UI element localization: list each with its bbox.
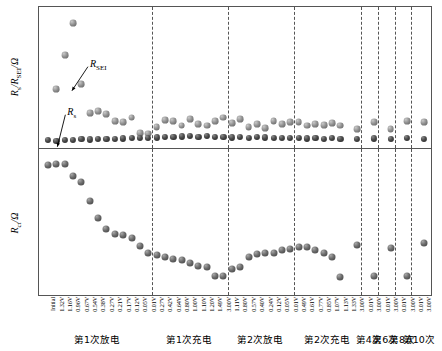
group-caption-3: 第2次充电 [304, 332, 350, 346]
x-tick-label-12: 0.01V [150, 297, 157, 312]
x-tick-label-15: 0.64V [175, 297, 182, 312]
group-caption-2: 第2次放电 [237, 332, 283, 346]
data-point [245, 253, 252, 260]
data-point [95, 214, 102, 221]
data-point [421, 240, 428, 247]
plot-area-top: 020406080RSEIRs [39, 7, 431, 148]
data-point [404, 273, 411, 280]
x-axis-group-captions: 第1次放电第1次充电第2次放电第2次充电第4次第6次第8次第10次 [38, 332, 432, 350]
x-tick-label-26: 0.24V [267, 297, 274, 312]
data-point [304, 243, 311, 250]
data-point [70, 173, 77, 180]
x-tick-label-41: 3.00V [392, 297, 399, 312]
data-point [178, 257, 185, 264]
x-tick-label-42: 0.01V [400, 297, 407, 312]
x-tick-label-1: 1.32V [58, 297, 65, 312]
group-divider-4 [361, 149, 362, 295]
group-caption-1: 第1次充电 [166, 332, 212, 346]
plot-area-bottom: 0100200300400500600 [39, 149, 431, 295]
x-tick-label-44: 0.01V [417, 297, 424, 312]
group-divider-1 [152, 149, 153, 295]
group-divider-3 [294, 149, 295, 295]
x-tick-label-3: 0.96V [74, 297, 81, 312]
x-tick-label-28: 0.05V [283, 297, 290, 312]
x-tick-label-16: 0.80V [183, 297, 190, 312]
x-tick-label-30: 0.49V [300, 297, 307, 312]
x-tick-label-29: 0.01V [292, 297, 299, 312]
data-point [195, 263, 202, 270]
x-tick-label-11: 0.05V [141, 297, 148, 312]
data-point [228, 265, 235, 272]
x-tick-label-10: 0.12V [133, 297, 140, 312]
annotation-arrow-s [39, 7, 431, 148]
x-tick-label-33: 0.85V [325, 297, 332, 312]
x-tick-label-22: 1.11V [233, 297, 240, 312]
x-tick-label-13: 0.27V [158, 297, 165, 312]
x-tick-label-38: 0.01V [367, 297, 374, 312]
x-tick-label-36: 1.33V [350, 297, 357, 312]
data-point [295, 244, 302, 251]
x-tick-label-14: 0.42V [166, 297, 173, 312]
group-divider-7 [411, 149, 412, 295]
data-point [161, 253, 168, 260]
x-tick-label-21: 3.00V [225, 297, 232, 312]
data-point [354, 242, 361, 249]
panel-rs-rsei: 020406080RSEIRs [38, 6, 432, 148]
x-tick-label-34: 1.07V [333, 297, 340, 312]
data-point [103, 225, 110, 232]
data-point [203, 264, 210, 271]
x-tick-label-27: 0.12V [275, 297, 282, 312]
data-point [212, 272, 219, 279]
x-tick-label-35: 1.13V [342, 297, 349, 312]
x-tick-label-31: 0.61V [308, 297, 315, 312]
data-point [145, 250, 152, 257]
data-point [220, 273, 227, 280]
data-point [329, 254, 336, 261]
x-tick-label-45: 3.00V [425, 297, 432, 312]
x-tick-label-7: 0.27V [108, 297, 115, 312]
data-point [111, 230, 118, 237]
group-divider-6 [395, 149, 396, 295]
data-point [86, 197, 93, 204]
x-tick-label-17: 1.00V [191, 297, 198, 312]
group-divider-5 [378, 149, 379, 295]
data-point [278, 247, 285, 254]
data-point [61, 160, 68, 167]
group-caption-0: 第1次放电 [74, 332, 120, 346]
x-axis-tick-labels: Initial1.32V1.16V0.96V0.67V0.54V0.38V0.2… [38, 297, 432, 331]
x-tick-label-23: 0.80V [241, 297, 248, 312]
data-point [120, 231, 127, 238]
x-tick-label-4: 0.67V [83, 297, 90, 312]
x-tick-label-19: 1.20V [208, 297, 215, 312]
x-tick-label-0: Initial [49, 297, 56, 311]
group-caption-7: 第10次 [403, 332, 435, 346]
data-point [78, 178, 85, 185]
x-tick-label-8: 0.21V [116, 297, 123, 312]
x-tick-label-39: 3.00V [375, 297, 382, 312]
x-tick-label-37: 3.00V [358, 297, 365, 312]
data-point [320, 250, 327, 257]
data-point [53, 161, 60, 168]
data-point [262, 250, 269, 257]
data-point [253, 251, 260, 258]
x-tick-label-25: 0.40V [258, 297, 265, 312]
data-point [312, 247, 319, 254]
group-divider-2 [228, 149, 229, 295]
data-point [287, 245, 294, 252]
data-point [187, 259, 194, 266]
x-tick-label-40: 0.01V [384, 297, 391, 312]
y-axis-title-top: Rs/RSEI/Ω [9, 47, 23, 107]
x-tick-label-32: 0.77V [317, 297, 324, 312]
y-axis-title-bottom: Rct/Ω [9, 193, 23, 253]
data-point [128, 234, 135, 241]
data-point [136, 242, 143, 249]
data-point [45, 162, 52, 169]
panel-rct: 0100200300400500600 [38, 148, 432, 296]
data-point [387, 245, 394, 252]
x-tick-label-6: 0.38V [99, 297, 106, 312]
data-point [270, 249, 277, 256]
x-tick-label-24: 0.57V [250, 297, 257, 312]
figure-root: 020406080RSEIRs Rs/RSEI/Ω 01002003004005… [0, 0, 442, 351]
data-point [170, 255, 177, 262]
data-point [337, 273, 344, 280]
